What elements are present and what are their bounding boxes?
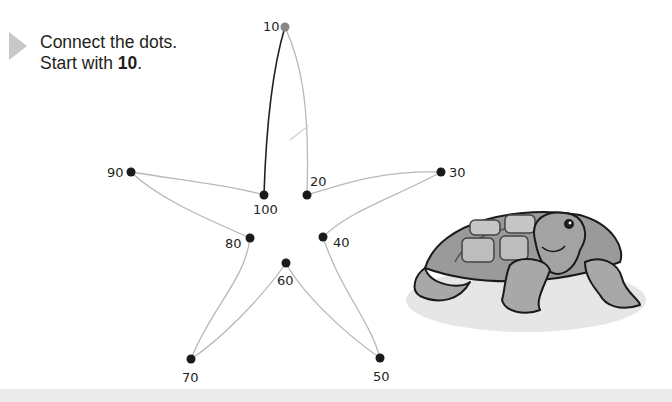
- dot-90[interactable]: [127, 168, 136, 177]
- dot-10[interactable]: [281, 23, 290, 32]
- dot-50[interactable]: [376, 354, 385, 363]
- dot-40[interactable]: [319, 233, 328, 242]
- dot-100[interactable]: [260, 191, 269, 200]
- dot-label-70: 70: [182, 371, 199, 384]
- dot-label-60: 60: [277, 274, 294, 287]
- starfish-guide-outline: [131, 27, 441, 359]
- dot-60[interactable]: [282, 259, 291, 268]
- dot-label-100: 100: [253, 203, 278, 216]
- dot-label-20: 20: [310, 175, 327, 188]
- dot-label-10: 10: [263, 20, 280, 33]
- dot-label-30: 30: [449, 166, 466, 179]
- turtle-eye: [565, 220, 573, 228]
- dot-label-90: 90: [107, 166, 124, 179]
- dot-label-50: 50: [373, 370, 390, 383]
- dot-to-dot-puzzle: [0, 0, 672, 389]
- dot-70[interactable]: [187, 355, 196, 364]
- dot-30[interactable]: [437, 168, 446, 177]
- drawn-line: [264, 27, 285, 195]
- dot-label-40: 40: [333, 236, 350, 249]
- dot-80[interactable]: [246, 234, 255, 243]
- footer-band: [0, 389, 672, 402]
- dot-20[interactable]: [303, 191, 312, 200]
- dot-label-80: 80: [225, 237, 242, 250]
- turtle-illustration: [406, 212, 646, 332]
